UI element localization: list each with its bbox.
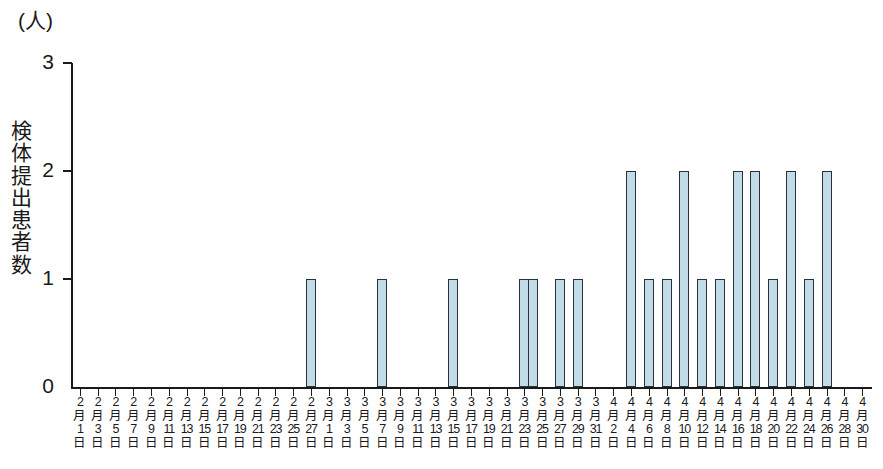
plot-area bbox=[71, 63, 871, 388]
bar bbox=[306, 279, 316, 387]
bar bbox=[626, 171, 636, 387]
x-tick-label: 4月18日 bbox=[746, 396, 764, 450]
x-tick-label: 3月15日 bbox=[444, 396, 462, 450]
x-tick-label: 4月22日 bbox=[782, 396, 800, 450]
bar bbox=[448, 279, 458, 387]
x-tick-label: 2月17日 bbox=[213, 396, 231, 450]
y-tick-label: 1 bbox=[28, 267, 54, 288]
bar bbox=[573, 279, 583, 387]
x-tick-label: 4月24日 bbox=[800, 396, 818, 450]
x-tick-label: 2月23日 bbox=[266, 396, 284, 450]
bar bbox=[786, 171, 796, 387]
x-tick-label: 2月15日 bbox=[195, 396, 213, 450]
x-tick-label: 2月11日 bbox=[160, 396, 178, 450]
x-tick-label: 3月21日 bbox=[498, 396, 516, 450]
y-axis-title-char: 出 bbox=[8, 187, 34, 209]
y-tick-label: 3 bbox=[28, 51, 54, 72]
bar bbox=[715, 279, 725, 387]
bar bbox=[644, 279, 654, 387]
bar bbox=[377, 279, 387, 387]
x-tick-label: 4月6日 bbox=[640, 396, 658, 450]
x-tick-label: 2月3日 bbox=[89, 396, 107, 450]
x-tick-label: 2月13日 bbox=[178, 396, 196, 450]
x-tick-label: 2月25日 bbox=[284, 396, 302, 450]
x-tick-label: 2月5日 bbox=[106, 396, 124, 450]
x-tick-label: 4月4日 bbox=[622, 396, 640, 450]
x-tick-label: 3月27日 bbox=[551, 396, 569, 450]
x-tick-label: 2月1日 bbox=[71, 396, 89, 450]
x-tick-label: 3月9日 bbox=[391, 396, 409, 450]
x-tick-label: 4月14日 bbox=[711, 396, 729, 450]
x-tick-label: 4月30日 bbox=[853, 396, 871, 450]
y-axis-title-char: 検 bbox=[8, 120, 34, 142]
x-tick-label: 2月9日 bbox=[142, 396, 160, 450]
x-tick-label: 3月25日 bbox=[533, 396, 551, 450]
x-tick-label: 3月19日 bbox=[480, 396, 498, 450]
x-tick-label: 4月10日 bbox=[675, 396, 693, 450]
bar bbox=[555, 279, 565, 387]
x-tick-label: 3月13日 bbox=[426, 396, 444, 450]
y-tick-label: 0 bbox=[28, 375, 54, 396]
bar bbox=[804, 279, 814, 387]
x-tick-label: 2月19日 bbox=[231, 396, 249, 450]
x-tick-label: 3月7日 bbox=[373, 396, 391, 450]
x-tick-label: 2月27日 bbox=[302, 396, 320, 450]
chart-figure: (人) 検体提出患者数 0123 2月1日2月3日2月5日2月7日2月9日2月1… bbox=[0, 0, 883, 469]
y-axis-title-char: 者 bbox=[8, 231, 34, 253]
x-tick-label: 3月1日 bbox=[320, 396, 338, 450]
y-axis-unit-label: (人) bbox=[18, 10, 53, 31]
bar bbox=[697, 279, 707, 387]
x-tick-label: 3月31日 bbox=[586, 396, 604, 450]
y-axis-title: 検体提出患者数 bbox=[8, 120, 34, 276]
x-tick-label: 3月17日 bbox=[462, 396, 480, 450]
bar bbox=[768, 279, 778, 387]
x-tick-label: 4月16日 bbox=[729, 396, 747, 450]
bar bbox=[822, 171, 832, 387]
bar bbox=[528, 279, 538, 387]
x-tick-label: 3月29日 bbox=[569, 396, 587, 450]
bar bbox=[662, 279, 672, 387]
y-axis-title-char: 患 bbox=[8, 209, 34, 231]
x-tick-label: 4月26日 bbox=[818, 396, 836, 450]
x-tick-label: 2月21日 bbox=[249, 396, 267, 450]
x-tick-label: 3月23日 bbox=[515, 396, 533, 450]
bar bbox=[750, 171, 760, 387]
x-tick-label: 4月28日 bbox=[835, 396, 853, 450]
x-tick-label: 4月8日 bbox=[658, 396, 676, 450]
bar bbox=[679, 171, 689, 387]
x-tick-label: 3月3日 bbox=[338, 396, 356, 450]
x-tick-label: 4月12日 bbox=[693, 396, 711, 450]
x-tick-label: 2月7日 bbox=[124, 396, 142, 450]
x-tick-label: 3月11日 bbox=[409, 396, 427, 450]
y-tick-label: 2 bbox=[28, 159, 54, 180]
x-tick-label: 4月20日 bbox=[764, 396, 782, 450]
x-tick-label: 3月5日 bbox=[355, 396, 373, 450]
x-tick-label: 4月2日 bbox=[604, 396, 622, 450]
bar bbox=[733, 171, 743, 387]
